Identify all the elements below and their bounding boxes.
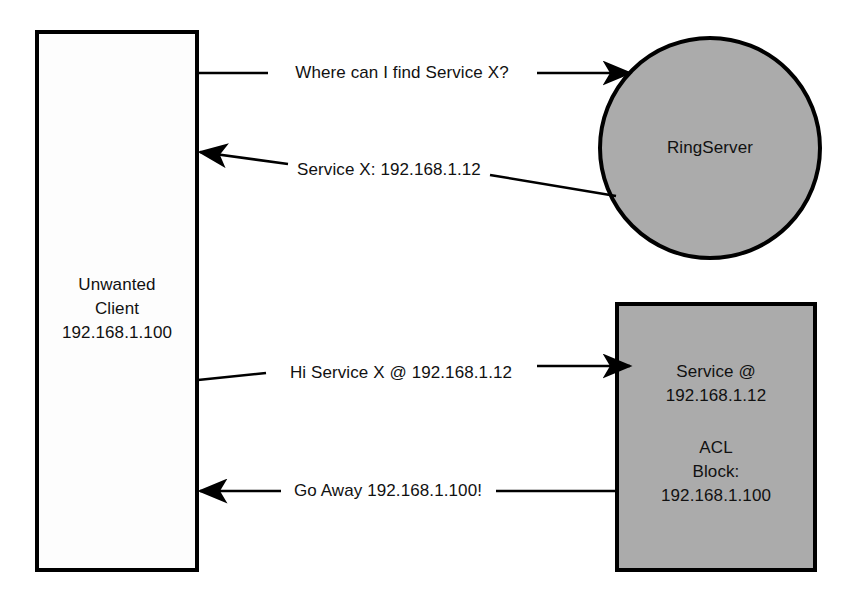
edge-ringserver-to-client-reply-stem-left: [200, 152, 288, 164]
diagram-vector-layer: [0, 0, 863, 602]
edge-service-to-client-denial-label: Go Away 192.168.1.100!: [292, 481, 484, 501]
ringserver-shape: [600, 38, 820, 258]
diagram-canvas: Unwanted Client 192.168.1.100 RingServer…: [0, 0, 863, 602]
edge-client-to-service-hello-label: Hi Service X @ 192.168.1.12: [288, 363, 514, 383]
edge-client-to-ringserver-query-label: Where can I find Service X?: [293, 63, 510, 83]
edge-ringserver-to-client-reply-label: Service X: 192.168.1.12: [295, 160, 483, 180]
edge-client-to-service-hello-stem-left: [198, 373, 266, 380]
unwanted-client-shape: [37, 32, 197, 570]
service-shape: [617, 304, 815, 570]
edge-ringserver-to-client-reply-stem-right: [490, 175, 616, 196]
